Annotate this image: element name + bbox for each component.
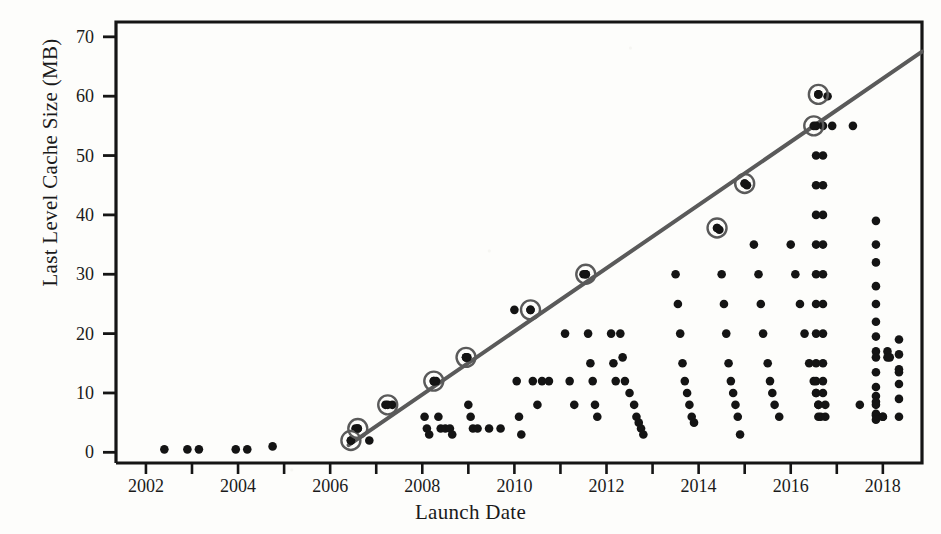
data-point: [819, 329, 828, 338]
data-point: [895, 380, 904, 389]
data-point: [727, 377, 736, 386]
data-point: [736, 430, 745, 439]
x-tick-label-2010: 2010: [479, 476, 549, 497]
data-point: [630, 401, 639, 410]
data-point: [750, 240, 759, 249]
data-point: [733, 412, 742, 421]
data-point: [766, 377, 775, 386]
data-point: [690, 418, 699, 427]
data-point: [872, 282, 881, 291]
figure-background: [0, 0, 941, 534]
data-point: [895, 335, 904, 344]
data-point: [183, 445, 192, 454]
highlight-dot: [740, 179, 749, 188]
data-point: [819, 389, 828, 398]
data-point: [588, 377, 597, 386]
data-point: [872, 317, 881, 326]
highlight-dot: [809, 122, 818, 131]
plot-canvas: [0, 0, 941, 534]
data-point: [639, 430, 648, 439]
data-point: [464, 401, 473, 410]
data-point: [895, 412, 904, 421]
data-point: [786, 240, 795, 249]
data-point: [729, 389, 738, 398]
data-point: [828, 122, 837, 131]
data-point: [872, 401, 881, 410]
data-point: [473, 424, 482, 433]
data-point: [593, 412, 602, 421]
highlight-dot: [354, 424, 363, 433]
data-point: [485, 424, 494, 433]
data-point: [195, 445, 204, 454]
data-point: [754, 270, 763, 279]
data-point: [510, 306, 519, 315]
highlight-dot: [814, 90, 823, 99]
data-point: [533, 401, 542, 410]
data-point: [512, 377, 521, 386]
data-point: [561, 329, 570, 338]
data-point: [856, 401, 865, 410]
data-point: [819, 377, 828, 386]
data-point: [365, 436, 374, 445]
data-point: [160, 445, 169, 454]
data-point: [895, 395, 904, 404]
data-point: [796, 300, 805, 309]
data-point: [819, 270, 828, 279]
x-tick-label-2012: 2012: [572, 476, 642, 497]
data-point: [496, 424, 505, 433]
data-point: [717, 270, 726, 279]
data-point: [819, 240, 828, 249]
data-point: [724, 359, 733, 368]
x-tick-label-2008: 2008: [387, 476, 457, 497]
y-tick-label-10: 10: [54, 382, 94, 403]
data-point: [819, 359, 828, 368]
data-point: [895, 350, 904, 359]
data-point: [685, 401, 694, 410]
data-point: [434, 412, 443, 421]
data-point: [885, 353, 894, 362]
y-axis-title: Last Level Cache Size (MB): [38, 0, 63, 333]
data-point: [768, 389, 777, 398]
data-point: [800, 329, 809, 338]
data-point: [791, 270, 800, 279]
data-point: [671, 270, 680, 279]
data-point: [872, 300, 881, 309]
data-point: [872, 240, 881, 249]
x-tick-label-2018: 2018: [848, 476, 918, 497]
scatter-plot-figure: 010203040506070 200220042006200820102012…: [0, 0, 941, 534]
data-point: [591, 401, 600, 410]
data-point: [872, 217, 881, 226]
data-point: [586, 359, 595, 368]
data-point: [570, 401, 579, 410]
data-point: [872, 368, 881, 377]
x-tick-label-2006: 2006: [295, 476, 365, 497]
data-point: [678, 359, 687, 368]
highlight-dot: [429, 377, 438, 386]
data-point: [683, 389, 692, 398]
data-point: [763, 359, 772, 368]
x-tick-label-2014: 2014: [664, 476, 734, 497]
data-point: [565, 377, 574, 386]
data-point: [819, 211, 828, 220]
data-point: [616, 329, 625, 338]
data-point: [681, 377, 690, 386]
data-point: [720, 300, 729, 309]
data-point: [872, 258, 881, 267]
data-point: [611, 377, 620, 386]
data-point: [821, 401, 830, 410]
data-point: [770, 401, 779, 410]
data-point: [420, 412, 429, 421]
data-point: [621, 377, 630, 386]
data-point: [607, 329, 616, 338]
data-point: [819, 151, 828, 160]
data-point: [759, 329, 768, 338]
data-point: [872, 383, 881, 392]
data-point: [821, 412, 830, 421]
data-point: [674, 300, 683, 309]
data-point: [625, 389, 634, 398]
data-point: [731, 401, 740, 410]
highlight-dot: [526, 306, 535, 315]
data-point: [515, 412, 524, 421]
data-point: [448, 430, 457, 439]
data-point: [268, 442, 277, 451]
